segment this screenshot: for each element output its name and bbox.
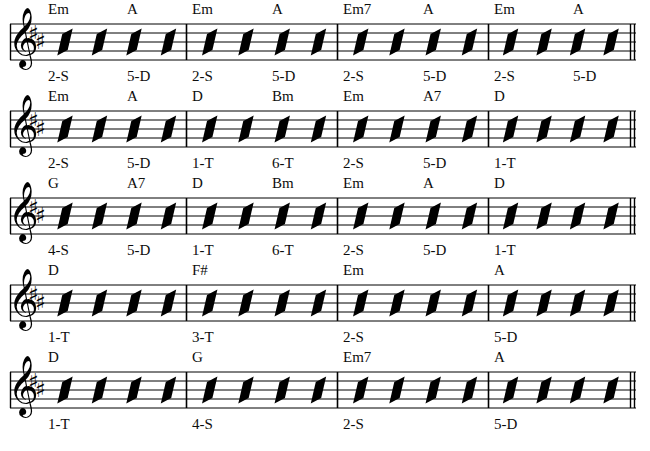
fingering-row: 1-T4-S2-S5-D bbox=[0, 415, 650, 435]
chord-symbol: Em bbox=[48, 87, 69, 106]
chord-symbol-row: EmAEmAEm7AEmA bbox=[0, 0, 650, 20]
chord-symbol: D bbox=[48, 261, 59, 280]
fingering-row: 1-T3-T2-S5-D bbox=[0, 328, 650, 348]
fingering-label: 6-T bbox=[272, 241, 294, 260]
fingering-label: 6-T bbox=[272, 154, 294, 173]
fingering-label: 5-D bbox=[127, 154, 150, 173]
chord-symbol: A bbox=[127, 0, 138, 19]
fingering-label: 1-T bbox=[192, 241, 214, 260]
chord-symbol: A bbox=[127, 87, 138, 106]
fingering-label: 1-T bbox=[48, 328, 70, 347]
chord-symbol: Em bbox=[343, 174, 364, 193]
fingering-row: 2-S5-D2-S5-D2-S5-D2-S5-D bbox=[0, 67, 650, 87]
chord-symbol: A bbox=[423, 0, 434, 19]
chord-symbol-row: GA7DBmEmAD bbox=[0, 174, 650, 194]
fingering-label: 1-T bbox=[494, 154, 516, 173]
staff-system: EmAEmAEm7AEmA𝄞♯♯2-S5-D2-S5-D2-S5-D2-S5-D bbox=[0, 0, 650, 87]
staff-system: DF#EmA𝄞♯♯1-T3-T2-S5-D bbox=[0, 261, 650, 348]
staff-graphic bbox=[0, 20, 650, 66]
chord-symbol: Bm bbox=[272, 87, 294, 106]
chord-symbol-row: EmADBmEmA7D bbox=[0, 87, 650, 107]
staff-system: GA7DBmEmAD𝄞♯♯4-S5-D1-T6-T2-S5-D1-T bbox=[0, 174, 650, 261]
chord-symbol: Em bbox=[343, 87, 364, 106]
staff-graphic bbox=[0, 281, 650, 327]
chord-symbol: Em bbox=[494, 0, 515, 19]
staff-graphic bbox=[0, 194, 650, 240]
chord-symbol: Em bbox=[48, 0, 69, 19]
sharp-icon: ♯ bbox=[35, 31, 46, 53]
fingering-row: 4-S5-D1-T6-T2-S5-D1-T bbox=[0, 241, 650, 261]
fingering-label: 2-S bbox=[343, 328, 364, 347]
chord-symbol: Bm bbox=[272, 174, 294, 193]
chord-symbol: Em bbox=[192, 0, 213, 19]
fingering-label: 4-S bbox=[48, 241, 69, 260]
chord-symbol: Em bbox=[343, 261, 364, 280]
fingering-label: 2-S bbox=[48, 154, 69, 173]
fingering-label: 1-T bbox=[494, 241, 516, 260]
chord-symbol: Em7 bbox=[343, 348, 371, 367]
fingering-row: 2-S5-D1-T6-T2-S5-D1-T bbox=[0, 154, 650, 174]
sheet-music-page: EmAEmAEm7AEmA𝄞♯♯2-S5-D2-S5-D2-S5-D2-S5-D… bbox=[0, 0, 650, 451]
fingering-label: 5-D bbox=[423, 241, 446, 260]
fingering-label: 5-D bbox=[573, 67, 596, 86]
fingering-label: 2-S bbox=[494, 67, 515, 86]
chord-symbol: A bbox=[423, 174, 434, 193]
chord-symbol: A bbox=[494, 348, 505, 367]
fingering-label: 2-S bbox=[192, 67, 213, 86]
staff: 𝄞♯♯ bbox=[0, 194, 650, 240]
staff-graphic bbox=[0, 107, 650, 153]
staff-system: DGEm7A𝄞♯♯1-T4-S2-S5-D bbox=[0, 348, 650, 435]
sharp-icon: ♯ bbox=[35, 205, 46, 227]
chord-symbol: A bbox=[272, 0, 283, 19]
chord-symbol-row: DGEm7A bbox=[0, 348, 650, 368]
chord-symbol: D bbox=[48, 348, 59, 367]
fingering-label: 5-D bbox=[494, 328, 517, 347]
fingering-label: 5-D bbox=[127, 241, 150, 260]
chord-symbol: Em7 bbox=[343, 0, 371, 19]
chord-symbol: A7 bbox=[423, 87, 441, 106]
sharp-icon: ♯ bbox=[35, 292, 46, 314]
staff: 𝄞♯♯ bbox=[0, 368, 650, 414]
chord-symbol: G bbox=[192, 348, 203, 367]
staff-system: EmADBmEmA7D𝄞♯♯2-S5-D1-T6-T2-S5-D1-T bbox=[0, 87, 650, 174]
sharp-icon: ♯ bbox=[35, 379, 46, 401]
fingering-label: 2-S bbox=[343, 67, 364, 86]
chord-symbol-row: DF#EmA bbox=[0, 261, 650, 281]
chord-symbol: D bbox=[494, 174, 505, 193]
fingering-label: 2-S bbox=[343, 154, 364, 173]
fingering-label: 5-D bbox=[494, 415, 517, 434]
chord-symbol: D bbox=[192, 87, 203, 106]
fingering-label: 1-T bbox=[48, 415, 70, 434]
chord-symbol: G bbox=[48, 174, 59, 193]
staff-graphic bbox=[0, 368, 650, 414]
fingering-label: 5-D bbox=[423, 154, 446, 173]
staff: 𝄞♯♯ bbox=[0, 20, 650, 66]
fingering-label: 4-S bbox=[192, 415, 213, 434]
fingering-label: 5-D bbox=[423, 67, 446, 86]
chord-symbol: A bbox=[494, 261, 505, 280]
sharp-icon: ♯ bbox=[35, 118, 46, 140]
staff: 𝄞♯♯ bbox=[0, 107, 650, 153]
chord-symbol: F# bbox=[192, 261, 208, 280]
fingering-label: 3-T bbox=[192, 328, 214, 347]
fingering-label: 2-S bbox=[48, 67, 69, 86]
fingering-label: 5-D bbox=[272, 67, 295, 86]
fingering-label: 2-S bbox=[343, 415, 364, 434]
fingering-label: 5-D bbox=[127, 67, 150, 86]
staff: 𝄞♯♯ bbox=[0, 281, 650, 327]
fingering-label: 1-T bbox=[192, 154, 214, 173]
chord-symbol: A7 bbox=[127, 174, 145, 193]
chord-symbol: A bbox=[573, 0, 584, 19]
fingering-label: 2-S bbox=[343, 241, 364, 260]
chord-symbol: D bbox=[494, 87, 505, 106]
chord-symbol: D bbox=[192, 174, 203, 193]
